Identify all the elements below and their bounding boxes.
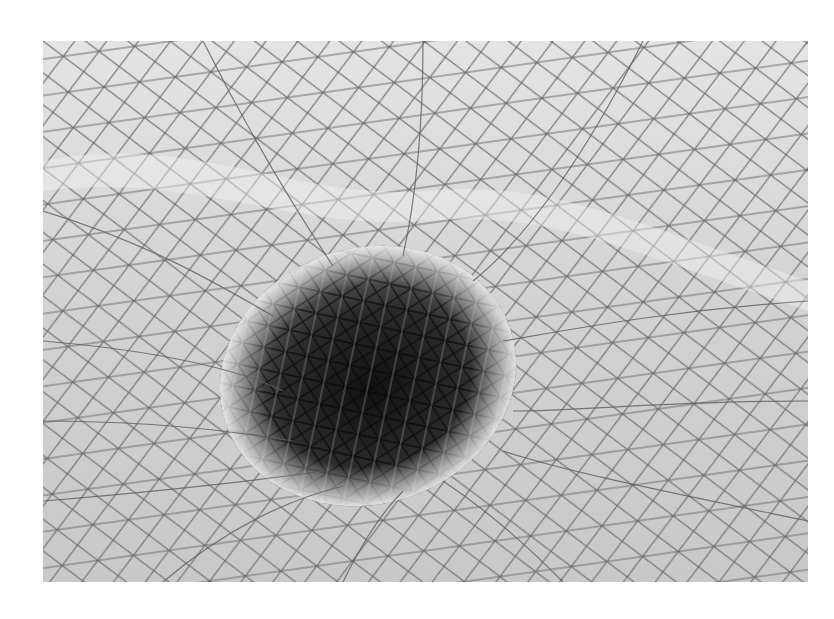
gridshell-illustration xyxy=(43,41,808,582)
architectural-photo xyxy=(43,41,808,582)
